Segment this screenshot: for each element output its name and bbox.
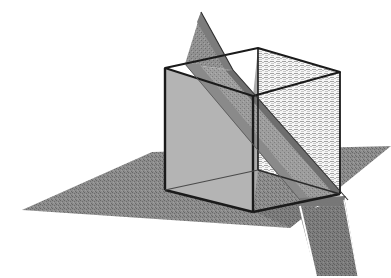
geometry-illustration: Cube intersected by a ground plane and a… [0,0,391,278]
figure-root: Cube intersected by a ground plane and a… [0,0,391,278]
